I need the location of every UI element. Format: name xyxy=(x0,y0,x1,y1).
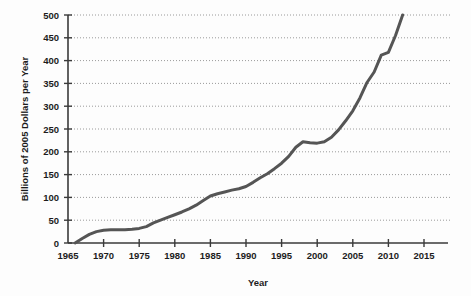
y-tick-label: 350 xyxy=(43,78,59,89)
x-tick-label: 2005 xyxy=(342,250,364,261)
chart-container: 050100150200250300350400450500 196519701… xyxy=(0,0,471,296)
y-tick-label: 50 xyxy=(48,215,59,226)
x-tick-label: 1975 xyxy=(129,250,151,261)
y-tick-label: 450 xyxy=(43,32,59,43)
x-tick-label: 1990 xyxy=(235,250,256,261)
y-tick-label: 150 xyxy=(43,169,59,180)
x-tick-label: 1995 xyxy=(271,250,293,261)
y-axis-title: Billions of 2005 Dollars per Year xyxy=(19,56,30,201)
x-tick-label: 2010 xyxy=(378,250,399,261)
y-tick-label: 200 xyxy=(43,146,59,157)
y-tick-label: 500 xyxy=(43,10,59,21)
x-tick-label: 2015 xyxy=(413,250,435,261)
x-tick-label: 1965 xyxy=(57,250,79,261)
x-tick-label: 1970 xyxy=(93,250,114,261)
y-tick-label: 250 xyxy=(43,124,59,135)
x-tick-label: 1980 xyxy=(164,250,185,261)
x-tick-label: 1985 xyxy=(200,250,222,261)
x-axis-title: Year xyxy=(248,277,268,288)
y-tick-label: 400 xyxy=(43,55,59,66)
y-tick-label: 300 xyxy=(43,101,59,112)
y-tick-label: 0 xyxy=(54,238,59,249)
x-tick-labels-group: 1965197019751980198519901995200020052010… xyxy=(57,250,435,261)
x-tick-label: 2000 xyxy=(307,250,328,261)
line-chart: 050100150200250300350400450500 196519701… xyxy=(0,0,471,296)
y-tick-label: 100 xyxy=(43,192,59,203)
